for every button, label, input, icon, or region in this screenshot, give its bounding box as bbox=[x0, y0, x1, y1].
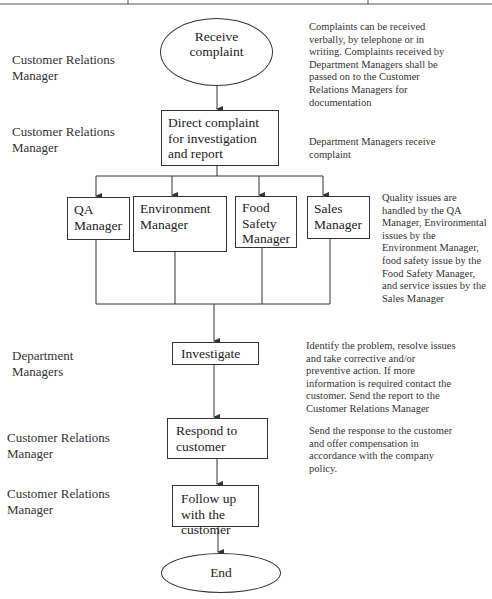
start-node-label: Receive complaint bbox=[182, 29, 252, 60]
note-respond: Send the response to the customer and of… bbox=[309, 425, 459, 475]
role-label-investigate: Department Managers bbox=[12, 348, 122, 380]
manager-label-environment: Environment Manager bbox=[140, 201, 222, 232]
step-respond: Respond to customer bbox=[167, 418, 268, 459]
role-label-receive: Customer Relations Manager bbox=[12, 52, 122, 84]
role-label-respond: Customer Relations Manager bbox=[7, 430, 117, 462]
note-receive: Complaints can be received verbally, by … bbox=[309, 21, 449, 109]
manager-label-food-safety: Food Safety Manager bbox=[242, 200, 282, 247]
role-label-direct: Customer Relations Manager bbox=[12, 124, 122, 156]
step-direct-label: Direct complaint for investigation and r… bbox=[168, 115, 259, 161]
note-investigate: Identify the problem, resolve issues and… bbox=[306, 340, 456, 416]
step-follow-up-label: Follow up with the customer bbox=[181, 491, 236, 537]
step-direct-complaint: Direct complaint for investigation and r… bbox=[161, 110, 279, 166]
note-direct: Department Managers receive complaint bbox=[309, 136, 449, 161]
role-label-follow-up: Customer Relations Manager bbox=[7, 486, 117, 518]
manager-box-sales: Sales Manager bbox=[307, 196, 370, 239]
end-node: End bbox=[161, 553, 281, 593]
manager-box-environment: Environment Manager bbox=[133, 196, 227, 252]
step-follow-up: Follow up with the customer bbox=[172, 485, 259, 527]
start-node-receive-complaint: Receive complaint bbox=[160, 18, 273, 86]
manager-box-food-safety: Food Safety Manager bbox=[235, 196, 297, 248]
manager-label-qa: QA Manager bbox=[74, 202, 122, 233]
manager-box-qa: QA Manager bbox=[67, 197, 130, 240]
manager-label-sales: Sales Manager bbox=[314, 201, 362, 232]
step-respond-label: Respond to customer bbox=[176, 423, 252, 454]
note-managers: Quality issues are handled by the QA Man… bbox=[382, 192, 492, 305]
step-investigate: Investigate bbox=[172, 342, 259, 365]
end-node-label: End bbox=[210, 565, 232, 581]
step-investigate-label: Investigate bbox=[181, 346, 240, 361]
